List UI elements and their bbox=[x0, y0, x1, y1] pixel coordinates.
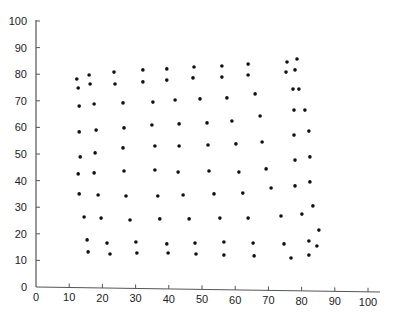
data-point bbox=[76, 86, 80, 90]
x-tick-label: 80 bbox=[295, 295, 307, 307]
data-point bbox=[251, 241, 255, 245]
data-point bbox=[307, 253, 311, 257]
y-tick-label: 80 bbox=[15, 68, 27, 80]
data-point bbox=[293, 158, 297, 162]
data-point bbox=[253, 92, 257, 96]
data-point bbox=[230, 119, 234, 123]
data-point bbox=[192, 65, 196, 69]
data-point bbox=[92, 171, 96, 175]
x-tick-label: 60 bbox=[229, 294, 241, 306]
data-point bbox=[165, 78, 169, 82]
data-point bbox=[293, 68, 297, 72]
data-point bbox=[212, 192, 216, 196]
data-point bbox=[311, 204, 315, 208]
data-point bbox=[113, 82, 117, 86]
data-point bbox=[122, 126, 126, 130]
x-tick-label: 70 bbox=[262, 294, 274, 306]
x-tick-label: 40 bbox=[163, 293, 175, 305]
data-point bbox=[88, 82, 92, 86]
data-point bbox=[77, 130, 81, 134]
data-point bbox=[317, 228, 321, 232]
data-point bbox=[166, 251, 170, 255]
data-point bbox=[177, 122, 181, 126]
data-point bbox=[260, 140, 264, 144]
data-point bbox=[237, 170, 241, 174]
data-point bbox=[193, 241, 197, 245]
data-point bbox=[225, 96, 229, 100]
data-point bbox=[220, 75, 224, 79]
data-point bbox=[292, 133, 296, 137]
data-point bbox=[93, 151, 97, 155]
data-point bbox=[220, 64, 224, 68]
data-point bbox=[194, 252, 198, 256]
y-tick-label: 10 bbox=[15, 254, 27, 266]
data-point bbox=[289, 256, 293, 260]
data-point bbox=[141, 68, 145, 72]
data-point bbox=[246, 216, 250, 220]
data-point bbox=[282, 242, 286, 246]
data-point bbox=[173, 98, 177, 102]
data-point bbox=[153, 168, 157, 172]
data-point bbox=[303, 108, 307, 112]
y-tick-label: 50 bbox=[15, 148, 27, 160]
y-tick-label: 60 bbox=[15, 121, 27, 133]
data-point bbox=[75, 77, 79, 81]
data-point bbox=[308, 155, 312, 159]
data-point bbox=[181, 193, 185, 197]
data-point bbox=[96, 193, 100, 197]
data-point bbox=[308, 180, 312, 184]
y-tick-label: 30 bbox=[15, 201, 27, 213]
data-point bbox=[264, 167, 268, 171]
data-point bbox=[246, 73, 250, 77]
data-point bbox=[218, 216, 222, 220]
data-point bbox=[94, 128, 98, 132]
scatter-chart: 0102030405060708090100 01020304050607080… bbox=[0, 0, 393, 319]
data-point bbox=[165, 242, 169, 246]
data-point bbox=[300, 212, 304, 216]
data-point bbox=[292, 108, 296, 112]
data-point bbox=[112, 70, 116, 74]
data-point bbox=[252, 254, 256, 258]
data-point bbox=[134, 240, 138, 244]
data-point bbox=[307, 239, 311, 243]
y-tick-label: 20 bbox=[15, 228, 27, 240]
data-point bbox=[122, 169, 126, 173]
data-point bbox=[86, 250, 90, 254]
x-tick-label: 10 bbox=[63, 291, 75, 303]
data-point bbox=[78, 155, 82, 159]
data-point bbox=[191, 76, 195, 80]
x-tick-label: 20 bbox=[96, 292, 108, 304]
data-point bbox=[85, 238, 89, 242]
x-tick-label: 90 bbox=[329, 295, 341, 307]
x-axis-line bbox=[36, 287, 380, 292]
data-point bbox=[293, 184, 297, 188]
data-point bbox=[108, 252, 112, 256]
data-point bbox=[206, 143, 210, 147]
data-point bbox=[99, 216, 103, 220]
data-point bbox=[269, 186, 273, 190]
data-point bbox=[222, 253, 226, 257]
data-point bbox=[285, 60, 289, 64]
data-point bbox=[177, 144, 181, 148]
data-point bbox=[297, 87, 301, 91]
data-point bbox=[156, 194, 160, 198]
x-tick-label: 50 bbox=[196, 293, 208, 305]
x-tick-label: 0 bbox=[33, 291, 39, 303]
data-point bbox=[241, 191, 245, 195]
data-point bbox=[124, 194, 128, 198]
data-point bbox=[121, 146, 125, 150]
x-tick-label: 30 bbox=[129, 292, 141, 304]
data-point bbox=[165, 67, 169, 71]
data-point bbox=[77, 104, 81, 108]
data-point bbox=[158, 217, 162, 221]
y-tick-label: 100 bbox=[9, 15, 27, 27]
data-point bbox=[135, 251, 139, 255]
data-points bbox=[75, 57, 321, 260]
data-point bbox=[207, 169, 211, 173]
data-point bbox=[150, 123, 154, 127]
data-point bbox=[222, 240, 226, 244]
y-axis-ticks: 0102030405060708090100 bbox=[9, 15, 40, 293]
data-point bbox=[307, 129, 311, 133]
data-point bbox=[198, 97, 202, 101]
y-tick-label: 40 bbox=[15, 175, 27, 187]
